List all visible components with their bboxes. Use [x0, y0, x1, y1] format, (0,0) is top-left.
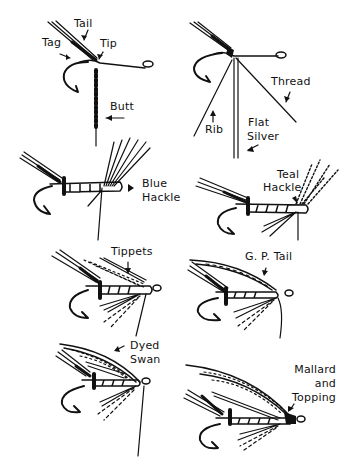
- label-gp-tail: G. P. Tail: [245, 251, 292, 263]
- label-flat: Flat: [248, 117, 269, 129]
- panel-teal-hackle: [196, 160, 338, 240]
- label-thread: Thread: [271, 76, 311, 88]
- panel-rib-silver-thread: [190, 22, 296, 158]
- label-teal: Teal: [277, 169, 299, 181]
- label-silver: Silver: [247, 131, 279, 143]
- label-teal-hackle: Hackle: [263, 182, 301, 194]
- label-tip: Tip: [100, 38, 117, 50]
- label-and: and: [286, 378, 336, 390]
- panel-tippets: [52, 250, 161, 336]
- panel-gp-tail: [188, 260, 293, 338]
- label-rib: Rib: [205, 124, 223, 136]
- label-swan: Swan: [130, 354, 161, 366]
- label-tippets: Tippets: [111, 246, 153, 258]
- label-blue-hackle: Hackle: [142, 192, 180, 204]
- label-mallard: Mallard: [286, 364, 336, 376]
- label-tag: Tag: [42, 37, 61, 49]
- label-butt: Butt: [110, 101, 134, 113]
- label-topping: Topping: [280, 392, 336, 404]
- label-tail: Tail: [74, 18, 93, 30]
- label-blue: Blue: [142, 178, 167, 190]
- panel-blue-hackle: [20, 138, 150, 240]
- label-dyed: Dyed: [130, 340, 160, 352]
